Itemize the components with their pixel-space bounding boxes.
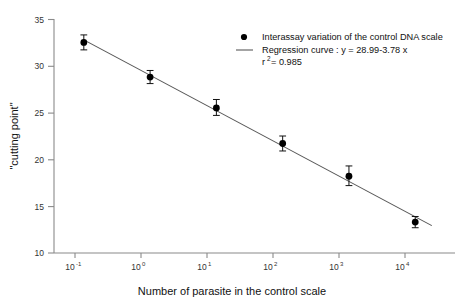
x-tick-exponent: -1: [76, 261, 82, 267]
y-tick-label-20: 20: [35, 155, 45, 165]
x-tick-base: 10: [395, 262, 405, 272]
x-tick-base: 10: [197, 262, 207, 272]
data-point-marker: [213, 105, 220, 112]
chart-figure: 35 30 25 20 15 10 10 -1 10 0 10 1 10: [0, 0, 465, 306]
y-tick-label-10: 10: [35, 248, 45, 258]
x-tick-base: 10: [263, 262, 273, 272]
chart-svg: 35 30 25 20 15 10 10 -1 10 0 10 1 10: [0, 0, 465, 306]
data-point-marker: [147, 74, 154, 81]
data-point-marker: [80, 39, 87, 46]
r-squared-value: = 0.985: [271, 57, 302, 67]
legend-label-series-2: Regression curve : y = 28.99-3.78 x: [262, 45, 408, 55]
x-tick-base: 10: [131, 262, 141, 272]
data-point-marker: [279, 140, 286, 147]
data-point-marker: [346, 173, 353, 180]
y-tick-label-25: 25: [35, 108, 45, 118]
x-tick-base: 10: [329, 262, 339, 272]
data-point-marker: [412, 219, 419, 226]
y-tick-label-35: 35: [35, 15, 45, 25]
y-tick-label-15: 15: [35, 202, 45, 212]
y-tick-label-30: 30: [35, 61, 45, 71]
y-axis-title: "cutting point": [8, 102, 20, 169]
legend-label-series-1: Interassay variation of the control DNA …: [262, 32, 443, 42]
x-axis-title: Number of parasite in the control scale: [138, 285, 326, 297]
r-squared-symbol: r: [262, 57, 265, 67]
legend-marker-circle-icon: [241, 34, 247, 40]
x-tick-base: 10: [65, 262, 75, 272]
